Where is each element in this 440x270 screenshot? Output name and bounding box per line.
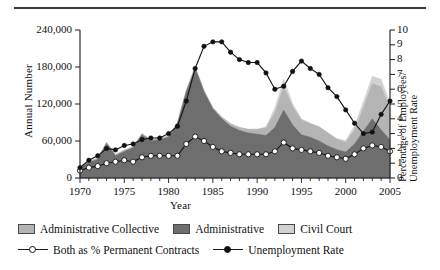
marker-unemployment-rate — [149, 136, 153, 140]
marker-both-as-permanent-contracts — [290, 146, 295, 151]
marker-unemployment-rate — [166, 131, 170, 135]
marker-both-as-permanent-contracts — [175, 153, 180, 158]
marker-both-as-permanent-contracts — [308, 149, 313, 154]
x-tick-label: 2000 — [324, 185, 368, 197]
marker-both-as-permanent-contracts — [334, 155, 339, 160]
marker-both-as-permanent-contracts — [299, 147, 304, 152]
y-tick-label-left: 0 — [8, 171, 72, 183]
x-tick-label: 1980 — [147, 185, 191, 197]
legend-row-swatches: Administrative CollectiveAdministrativeC… — [18, 218, 426, 239]
y-tick-label-left: 240,000 — [8, 23, 72, 35]
legend-row-lines: Both as % Permanent ContractsUnemploymen… — [18, 239, 426, 260]
marker-unemployment-rate — [175, 124, 179, 128]
y-tick-label-left: 60,000 — [8, 134, 72, 146]
y-tick-label-right: 0 — [397, 171, 413, 183]
marker-unemployment-rate — [264, 71, 268, 75]
legend-marker-icon — [29, 246, 36, 253]
marker-unemployment-rate — [96, 154, 100, 158]
figure: Annual Number Percentage of Employees/ U… — [0, 0, 440, 270]
marker-both-as-permanent-contracts — [228, 150, 233, 155]
legend-label: Administrative — [195, 223, 264, 235]
marker-both-as-permanent-contracts — [272, 149, 277, 154]
marker-unemployment-rate — [273, 87, 277, 91]
x-tick-label: 1975 — [102, 185, 146, 197]
marker-unemployment-rate — [158, 136, 162, 140]
marker-both-as-permanent-contracts — [95, 164, 100, 169]
marker-unemployment-rate — [104, 146, 108, 150]
marker-both-as-permanent-contracts — [370, 143, 375, 148]
x-axis-label: Year — [170, 199, 191, 211]
marker-unemployment-rate — [140, 137, 144, 141]
legend-line-icon — [213, 245, 243, 255]
marker-both-as-permanent-contracts — [317, 150, 322, 155]
legend-swatch-icon — [278, 224, 295, 234]
legend-swatch-icon — [18, 224, 35, 234]
legend-item[interactable]: Civil Court — [278, 223, 352, 235]
marker-both-as-permanent-contracts — [281, 140, 286, 145]
y-tick-label-left: 180,000 — [8, 60, 72, 72]
marker-both-as-permanent-contracts — [139, 155, 144, 160]
y-tick-label-right: 9 — [397, 37, 413, 49]
marker-unemployment-rate — [122, 143, 126, 147]
marker-unemployment-rate — [344, 108, 348, 112]
legend-item[interactable]: Unemployment Rate — [213, 244, 344, 256]
marker-both-as-permanent-contracts — [343, 156, 348, 161]
y-tick-label-right: 6 — [397, 82, 413, 94]
x-tick-label: 1970 — [58, 185, 102, 197]
marker-unemployment-rate — [220, 40, 224, 44]
y-tick-label-left: 120,000 — [8, 97, 72, 109]
y-tick-label-right: 5 — [397, 97, 413, 109]
legend-label: Both as % Permanent Contracts — [53, 244, 199, 256]
legend-item[interactable]: Administrative — [173, 223, 264, 235]
marker-unemployment-rate — [193, 66, 197, 70]
marker-unemployment-rate — [335, 94, 339, 98]
marker-unemployment-rate — [246, 60, 250, 64]
marker-unemployment-rate — [237, 57, 241, 61]
marker-both-as-permanent-contracts — [86, 165, 91, 170]
marker-unemployment-rate — [326, 86, 330, 90]
x-tick-label: 1985 — [191, 185, 235, 197]
marker-both-as-permanent-contracts — [325, 153, 330, 158]
marker-both-as-permanent-contracts — [361, 146, 366, 151]
marker-both-as-permanent-contracts — [184, 141, 189, 146]
marker-both-as-permanent-contracts — [193, 134, 198, 139]
x-tick-label: 1995 — [279, 185, 323, 197]
marker-unemployment-rate — [379, 112, 383, 116]
y-tick-label-right: 10 — [397, 23, 413, 35]
marker-unemployment-rate — [352, 121, 356, 125]
marker-unemployment-rate — [308, 66, 312, 70]
marker-unemployment-rate — [290, 69, 294, 73]
marker-both-as-permanent-contracts — [219, 149, 224, 154]
marker-unemployment-rate — [113, 148, 117, 152]
y-tick-label-right: 3 — [397, 126, 413, 138]
legend-item[interactable]: Both as % Permanent Contracts — [18, 244, 199, 256]
y-tick-label-right: 1 — [397, 156, 413, 168]
marker-unemployment-rate — [202, 44, 206, 48]
legend-label: Civil Court — [300, 223, 352, 235]
marker-unemployment-rate — [361, 131, 365, 135]
legend-marker-icon — [224, 246, 231, 253]
marker-unemployment-rate — [211, 40, 215, 44]
y-tick-label-right: 2 — [397, 141, 413, 153]
marker-unemployment-rate — [255, 60, 259, 64]
chart-legend: Administrative CollectiveAdministrativeC… — [18, 218, 426, 260]
marker-both-as-permanent-contracts — [201, 138, 206, 143]
marker-both-as-permanent-contracts — [237, 152, 242, 157]
x-tick-label: 2005 — [368, 185, 412, 197]
legend-item[interactable]: Administrative Collective — [18, 223, 159, 235]
marker-both-as-permanent-contracts — [148, 153, 153, 158]
marker-unemployment-rate — [282, 84, 286, 88]
marker-both-as-permanent-contracts — [352, 152, 357, 157]
marker-unemployment-rate — [184, 99, 188, 103]
y-tick-label-right: 7 — [397, 67, 413, 79]
marker-unemployment-rate — [131, 142, 135, 146]
marker-both-as-permanent-contracts — [157, 153, 162, 158]
marker-both-as-permanent-contracts — [263, 152, 268, 157]
marker-both-as-permanent-contracts — [113, 159, 118, 164]
legend-swatch-icon — [173, 224, 190, 234]
legend-line-icon — [18, 245, 48, 255]
marker-unemployment-rate — [317, 72, 321, 76]
marker-unemployment-rate — [299, 59, 303, 63]
y-tick-label-right: 8 — [397, 52, 413, 64]
marker-both-as-permanent-contracts — [379, 144, 384, 149]
